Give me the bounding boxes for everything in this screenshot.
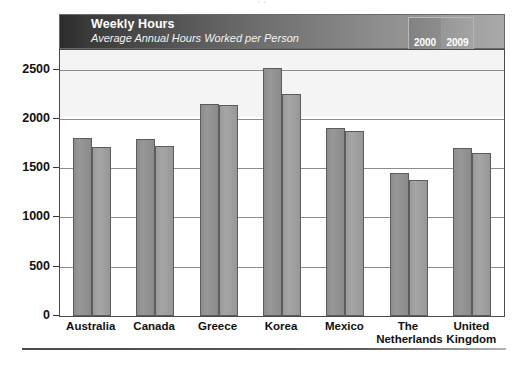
bottom-divider xyxy=(22,348,506,350)
plot-area xyxy=(59,49,505,317)
y-tick-label-1000: 1000 xyxy=(4,210,50,223)
y-tick-label-2000: 2000 xyxy=(4,112,50,125)
bar-australia-2000 xyxy=(73,138,92,316)
bar-the-netherlands-2009 xyxy=(409,180,428,316)
bar-korea-2009 xyxy=(282,94,301,316)
bar-the-netherlands-2000 xyxy=(390,173,409,316)
x-axis-label-united-kingdom: United Kingdom xyxy=(440,320,503,346)
bar-mexico-2000 xyxy=(326,128,345,316)
x-axis-label-korea: Korea xyxy=(249,320,312,333)
chart-figure: Weekly Hours Average Annual Hours Worked… xyxy=(0,0,524,367)
x-axis-label-canada: Canada xyxy=(122,320,185,333)
y-tick-label-0: 0 xyxy=(4,309,50,322)
x-axis-label-australia: Australia xyxy=(59,320,122,333)
bars-layer xyxy=(60,50,504,316)
bar-greece-2009 xyxy=(219,105,238,316)
bar-canada-2009 xyxy=(155,146,174,316)
y-tick-label-1500: 1500 xyxy=(4,161,50,174)
bar-greece-2000 xyxy=(200,104,219,316)
x-axis-label-greece: Greece xyxy=(186,320,249,333)
x-axis-label-mexico: Mexico xyxy=(313,320,376,333)
bar-united-kingdom-2000 xyxy=(453,148,472,316)
x-axis-label-the-netherlands: The Netherlands xyxy=(376,320,439,346)
bar-canada-2000 xyxy=(136,139,155,316)
y-tick-label-2500: 2500 xyxy=(4,63,50,76)
y-tick-label-500: 500 xyxy=(4,260,50,273)
bar-mexico-2009 xyxy=(345,131,364,316)
bar-korea-2000 xyxy=(263,68,282,316)
bar-united-kingdom-2009 xyxy=(472,153,491,316)
bar-australia-2009 xyxy=(92,147,111,316)
